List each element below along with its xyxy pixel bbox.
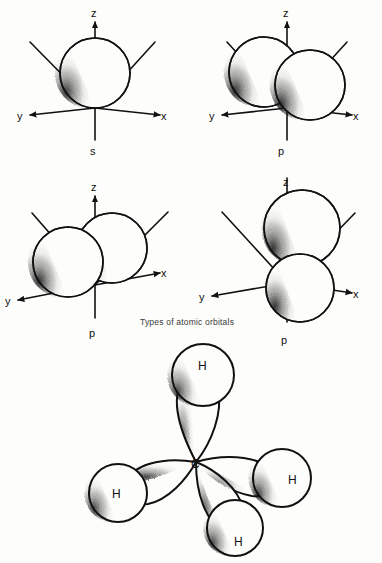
axis-label-y: y [5,295,11,307]
atom-label-hydrogen-left: H [112,487,121,501]
axis-label-y: y [199,291,205,303]
atom-label-hydrogen-right: H [288,473,297,487]
orbital-label-s: s [90,145,96,157]
atom-label-carbon: C [191,457,200,471]
axis-label-x: x [353,288,359,300]
orbital-label-pz: p [281,334,287,346]
atomic-orbitals-figure: z x y s z x y p z x y p z x y p C H H H … [0,0,382,563]
axis-label-x: x [353,110,359,122]
axis-label-z: z [91,7,97,19]
axis-y-line [30,108,95,115]
orbital-label-px: p [278,145,284,157]
panel-s-orbital [30,22,160,140]
methane-molecule [84,344,311,556]
orbital-label-py: p [89,327,95,339]
axis-label-y: y [17,110,23,122]
atom-label-hydrogen-top: H [198,359,207,373]
panel-px-orbital [222,22,352,140]
axis-label-z: z [91,181,97,193]
panel-py-orbital [18,196,168,318]
axis-y-line [222,108,287,115]
atom-label-hydrogen-bottom: H [234,535,243,549]
axis-label-x: x [161,267,167,279]
axis-label-z: z [283,176,289,188]
panel-pz-orbital [212,178,355,322]
axis-label-y: y [209,110,215,122]
axis-x-line [95,108,160,115]
figure-caption: Types of atomic orbitals [140,317,234,327]
axis-label-x: x [161,110,167,122]
axis-label-z: z [283,7,289,19]
